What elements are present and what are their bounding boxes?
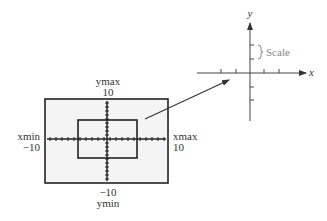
viewing-window	[45, 99, 168, 183]
x-axis-label: x	[309, 67, 323, 78]
diagram-canvas	[0, 0, 327, 221]
coordinate-plane	[197, 23, 306, 121]
xmax-value: 10	[173, 142, 213, 153]
xmin-value: −10	[2, 142, 40, 153]
ymax-value: 10	[86, 87, 130, 98]
scale-brace-icon	[258, 45, 263, 59]
y-axis-label: y	[243, 8, 257, 19]
scale-label: Scale	[266, 47, 316, 58]
ymin-label: ymin	[86, 198, 130, 209]
